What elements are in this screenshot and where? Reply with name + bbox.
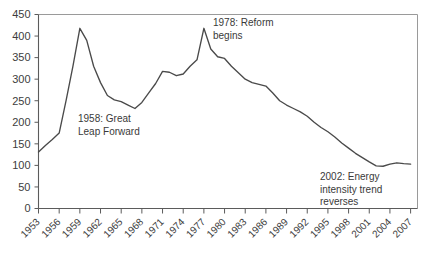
annotation-line: reverses [320,196,358,207]
data-series-group [39,28,411,166]
y-tick-label: 200 [12,116,30,128]
annot-great-leap-forward: 1958: GreatLeap Forward [78,113,140,137]
data-line-energy-intensity [39,28,411,166]
x-tick-label: 2001 [349,216,373,240]
x-tick-label: 1986 [246,216,270,240]
x-tick-label: 1995 [308,216,332,240]
annotation-line: begins [213,30,242,41]
x-tick-label: 1977 [184,216,208,240]
x-axis-ticks: 1953195619591962196519681971197419771980… [18,209,414,240]
x-tick-label: 1953 [18,216,42,240]
x-tick-label: 1974 [163,216,187,240]
x-tick-label: 1992 [287,216,311,240]
x-tick-label: 2007 [391,216,415,240]
annotations-group: 1958: GreatLeap Forward1978: Reformbegin… [78,17,382,207]
x-tick-label: 1965 [101,216,125,240]
y-axis-ticks: 050100150200250300350400450 [12,8,38,214]
annotation-line: 2002: Energy [320,171,380,182]
y-tick-label: 150 [12,138,30,150]
annot-reform-begins: 1978: Reformbegins [213,17,274,41]
x-tick-label: 1989 [266,216,290,240]
x-tick-label: 1971 [142,216,166,240]
x-tick-label: 1983 [225,216,249,240]
annotation-line: 1978: Reform [213,17,274,28]
x-tick-label: 2004 [370,216,394,240]
energy-intensity-line-chart: 050100150200250300350400450 195319561959… [0,0,436,253]
y-tick-label: 450 [12,8,30,20]
x-tick-label: 1962 [80,216,104,240]
y-tick-label: 350 [12,51,30,63]
chart-container: 050100150200250300350400450 195319561959… [0,0,436,253]
x-tick-label: 1956 [39,216,63,240]
annotation-line: 1958: Great [78,113,131,124]
annotation-line: intensity trend [320,184,382,195]
y-tick-label: 0 [24,202,30,214]
x-tick-label: 1968 [122,216,146,240]
x-tick-label: 1998 [328,216,352,240]
x-tick-label: 1980 [204,216,228,240]
x-tick-label: 1959 [60,216,84,240]
y-tick-label: 50 [18,181,30,193]
annot-energy-intensity-reverses: 2002: Energyintensity trendreverses [320,171,382,207]
annotation-line: Leap Forward [78,126,140,137]
y-tick-label: 400 [12,30,30,42]
y-tick-label: 250 [12,95,30,107]
y-tick-label: 100 [12,159,30,171]
y-tick-label: 300 [12,73,30,85]
